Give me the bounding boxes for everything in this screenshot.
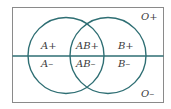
label-a-positive: A+ [40, 40, 57, 51]
label-ab-negative: AB– [75, 58, 96, 69]
blood-type-venn-diagram: A+ A– AB+ AB– B+ B– O+ O– [0, 0, 171, 109]
label-b-positive: B+ [117, 40, 134, 51]
label-a-negative: A– [40, 58, 53, 69]
label-o-negative: O– [141, 88, 154, 99]
label-o-positive: O+ [141, 11, 158, 22]
label-b-negative: B– [117, 58, 130, 69]
label-ab-positive: AB+ [75, 40, 99, 51]
